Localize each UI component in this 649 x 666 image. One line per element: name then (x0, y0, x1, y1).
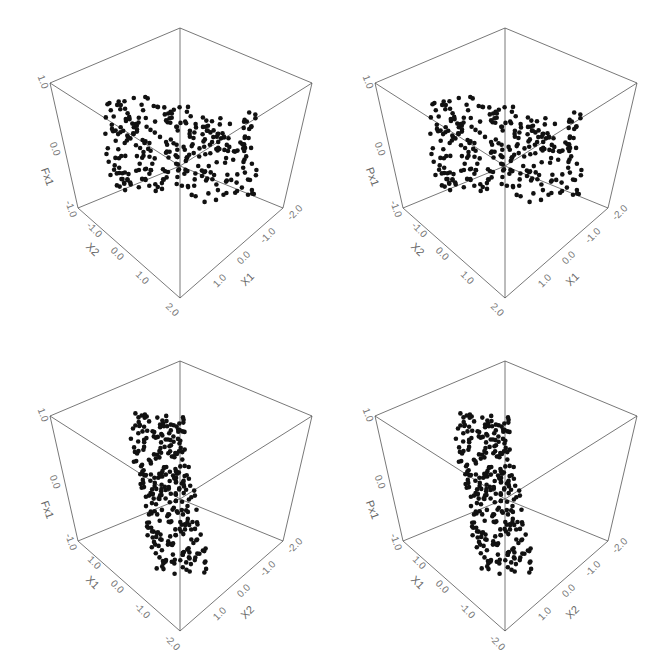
left-floor-axis-label: X2 (84, 240, 102, 258)
vertical-tick-top: 1.0 (36, 73, 51, 90)
right-floor-axis-label: X1 (238, 270, 256, 288)
right-floor-tick-4: 1.0 (211, 604, 229, 622)
scatter3d-panel-bottom-right: 1.00.0-1.0Px11.00.0-1.0-2.0X1-2.0-1.00.0… (325, 333, 649, 666)
scatter-points (129, 411, 209, 576)
vertical-tick-mid: 0.0 (48, 140, 63, 157)
cube-plot: 1.00.0-1.0Px1-1.00.01.02.0X2-2.0-1.00.01… (325, 0, 649, 333)
vertical-tick-mid: 0.0 (373, 473, 388, 490)
left-floor-tick-1: 1.0 (86, 554, 104, 572)
vertical-tick-bottom: -1.0 (388, 199, 404, 219)
left-floor-tick-2: 0.0 (109, 578, 127, 596)
right-floor-tick-1: -2.0 (285, 535, 305, 555)
left-floor-tick-1: -1.0 (409, 220, 429, 240)
vertical-tick-mid: 0.0 (48, 473, 63, 490)
cube-edges (50, 28, 312, 298)
right-floor-tick-2: -1.0 (583, 225, 603, 245)
right-floor-tick-2: -1.0 (583, 558, 603, 578)
cube-edges (375, 28, 637, 298)
vertical-tick-bottom: -1.0 (63, 199, 79, 219)
left-floor-tick-4: 2.0 (164, 301, 182, 319)
right-floor-axis-label: X2 (563, 603, 581, 621)
right-floor-axis-label: X1 (563, 270, 581, 288)
left-floor-tick-3: 1.0 (134, 269, 152, 287)
left-floor-axis-label: X1 (409, 573, 427, 591)
left-floor-tick-3: -1.0 (457, 601, 477, 621)
cube-edges (50, 361, 312, 631)
right-floor-tick-2: -1.0 (258, 558, 278, 578)
left-floor-axis-label: X2 (409, 240, 427, 258)
right-floor-axis-label: X2 (238, 603, 256, 621)
scatter3d-panel-bottom-left: 1.00.0-1.0Fx11.00.0-1.0-2.0X1-2.0-1.00.0… (0, 333, 324, 666)
left-floor-tick-2: 0.0 (434, 578, 452, 596)
right-floor-tick-1: -2.0 (285, 202, 305, 222)
vertical-axis-label: Px1 (364, 166, 382, 188)
cube-edges (375, 361, 637, 631)
vertical-tick-bottom: -1.0 (388, 532, 404, 552)
right-floor-tick-4: 1.0 (211, 271, 229, 289)
left-floor-tick-3: -1.0 (132, 601, 152, 621)
right-floor-tick-3: 0.0 (235, 581, 253, 599)
left-floor-tick-1: -1.0 (84, 220, 104, 240)
vertical-tick-top: 1.0 (361, 73, 376, 90)
right-floor-tick-4: 1.0 (536, 271, 554, 289)
scatter-points (454, 411, 534, 576)
vertical-tick-top: 1.0 (36, 406, 51, 423)
right-floor-tick-4: 1.0 (536, 604, 554, 622)
left-floor-tick-4: 2.0 (489, 301, 507, 319)
left-floor-axis-label: X1 (84, 573, 102, 591)
scatter3d-panel-top-left: 1.00.0-1.0Fx1-1.00.01.02.0X2-2.0-1.00.01… (0, 0, 324, 333)
vertical-tick-top: 1.0 (361, 406, 376, 423)
left-floor-tick-4: -2.0 (162, 633, 182, 653)
cube-plot: 1.00.0-1.0Fx11.00.0-1.0-2.0X1-2.0-1.00.0… (0, 333, 324, 666)
right-floor-tick-3: 0.0 (560, 581, 578, 599)
right-floor-tick-1: -2.0 (610, 535, 630, 555)
vertical-tick-bottom: -1.0 (63, 532, 79, 552)
vertical-axis-label: Px1 (364, 499, 382, 521)
left-floor-tick-2: 0.0 (109, 245, 127, 263)
left-floor-tick-4: -2.0 (487, 633, 507, 653)
right-floor-tick-3: 0.0 (560, 248, 578, 266)
cube-plot: 1.00.0-1.0Fx1-1.00.01.02.0X2-2.0-1.00.01… (0, 0, 324, 333)
vertical-tick-mid: 0.0 (373, 140, 388, 157)
left-floor-tick-1: 1.0 (411, 554, 429, 572)
vertical-axis-label: Fx1 (39, 499, 57, 520)
scatter3d-panel-top-right: 1.00.0-1.0Px1-1.00.01.02.0X2-2.0-1.00.01… (325, 0, 649, 333)
left-floor-tick-3: 1.0 (459, 269, 477, 287)
cube-plot: 1.00.0-1.0Px11.00.0-1.0-2.0X1-2.0-1.00.0… (325, 333, 649, 666)
right-floor-tick-3: 0.0 (235, 248, 253, 266)
right-floor-tick-2: -1.0 (258, 225, 278, 245)
vertical-axis-label: Fx1 (39, 166, 57, 187)
left-floor-tick-2: 0.0 (434, 245, 452, 263)
right-floor-tick-1: -2.0 (610, 202, 630, 222)
